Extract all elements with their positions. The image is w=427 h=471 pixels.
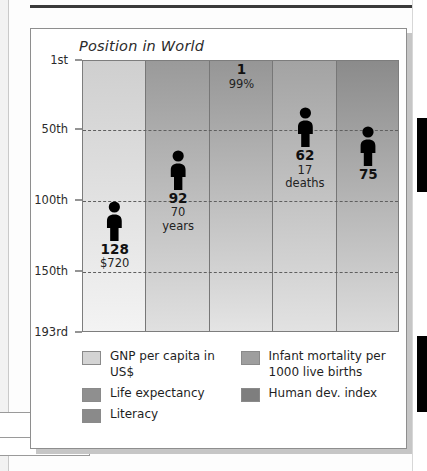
legend-item[interactable]: GNP per capita in US$ bbox=[82, 349, 241, 381]
y-tick-mark-50th bbox=[75, 129, 82, 130]
legend-swatch-icon bbox=[82, 388, 101, 402]
marker-rank-label: 92 bbox=[162, 191, 194, 207]
data-marker-1: 128$720 bbox=[100, 201, 129, 271]
y-tick-label-50th: 50th bbox=[42, 122, 68, 136]
marker-rank-label: 75 bbox=[356, 167, 380, 183]
page-edge-black-bar-lower bbox=[417, 336, 427, 412]
page-canvas: Position in World 1st50th100th150th193rd… bbox=[0, 0, 427, 471]
legend-item[interactable]: Infant mortality per 1000 live births bbox=[241, 349, 400, 381]
data-marker-4: 6217 deaths bbox=[285, 107, 324, 191]
marker-rank-label: 62 bbox=[285, 148, 324, 164]
y-tick-label-150th: 150th bbox=[34, 264, 68, 278]
gridline-150th bbox=[83, 272, 398, 273]
legend-column-left: GNP per capita in US$Life expectancyLite… bbox=[82, 349, 241, 431]
plot-column-3 bbox=[210, 61, 273, 331]
y-tick-label-100th: 100th bbox=[34, 193, 68, 207]
y-tick-label-193rd: 193rd bbox=[34, 325, 68, 339]
legend-swatch-icon bbox=[82, 409, 101, 423]
legend-swatch-icon bbox=[241, 388, 260, 402]
data-marker-5: 75 bbox=[356, 126, 380, 183]
legend-item-label: Infant mortality per 1000 live births bbox=[269, 349, 386, 381]
marker-value-label: 99% bbox=[229, 78, 255, 92]
y-tick-mark-100th bbox=[75, 200, 82, 201]
y-tick-mark-150th bbox=[75, 271, 82, 272]
legend-item[interactable]: Literacy bbox=[82, 407, 241, 423]
plot-column-4 bbox=[273, 61, 336, 331]
person-icon bbox=[356, 126, 380, 166]
figure-card: Position in World 1st50th100th150th193rd… bbox=[30, 28, 407, 449]
person-icon bbox=[100, 201, 129, 241]
y-tick-label-1st: 1st bbox=[50, 53, 68, 67]
legend-item-label: Human dev. index bbox=[269, 386, 378, 402]
y-tick-mark-1st bbox=[75, 60, 82, 61]
legend-item-label: GNP per capita in US$ bbox=[110, 349, 241, 381]
marker-value-label: $720 bbox=[100, 257, 129, 271]
legend-item[interactable]: Human dev. index bbox=[241, 386, 400, 402]
plot-column-1 bbox=[83, 61, 146, 331]
person-icon bbox=[285, 107, 324, 147]
legend: GNP per capita in US$Life expectancyLite… bbox=[82, 349, 399, 431]
data-marker-2: 9270 years bbox=[162, 150, 194, 234]
marker-rank-label: 128 bbox=[100, 242, 129, 258]
gridline-50th bbox=[83, 130, 398, 131]
gridline-100th bbox=[83, 201, 398, 202]
marker-rank-label: 1 bbox=[229, 62, 255, 78]
legend-swatch-icon bbox=[241, 351, 260, 365]
person-icon bbox=[162, 150, 194, 190]
legend-column-right: Infant mortality per 1000 live birthsHum… bbox=[241, 349, 400, 431]
page-left-margin bbox=[0, 0, 9, 471]
plot-area: 128$7209270 years199%6217 deaths75 bbox=[82, 60, 399, 332]
legend-item[interactable]: Life expectancy bbox=[82, 386, 241, 402]
chart-title: Position in World bbox=[79, 38, 204, 54]
marker-value-label: 70 years bbox=[162, 206, 194, 233]
legend-item-label: Literacy bbox=[110, 407, 158, 423]
data-marker-3: 199% bbox=[229, 60, 255, 91]
marker-value-label: 17 deaths bbox=[285, 164, 324, 191]
plot-column-5 bbox=[337, 61, 399, 331]
legend-item-label: Life expectancy bbox=[110, 386, 205, 402]
y-tick-mark-193rd bbox=[75, 332, 82, 333]
legend-swatch-icon bbox=[82, 351, 101, 365]
page-edge-black-bar-upper bbox=[417, 118, 427, 192]
top-horizontal-rule bbox=[30, 5, 412, 8]
